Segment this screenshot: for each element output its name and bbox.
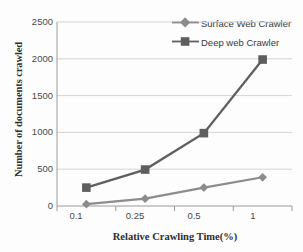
legend-marker-surface-diamond-icon bbox=[180, 17, 190, 27]
series-line-surface bbox=[86, 177, 262, 204]
x-axis-ticks bbox=[57, 206, 292, 211]
data-point-diamond-icon bbox=[258, 173, 267, 182]
data-point-diamond-icon bbox=[141, 194, 150, 203]
series-markers-deep bbox=[82, 55, 267, 192]
series-markers-surface bbox=[82, 173, 267, 209]
data-point-square-icon bbox=[258, 55, 267, 64]
data-point-diamond-icon bbox=[199, 183, 208, 192]
series-surface-web-crawler bbox=[82, 173, 267, 209]
chart-container: Number of documents crawled 2500 2000 15… bbox=[0, 0, 303, 252]
series-line-deep bbox=[86, 60, 262, 188]
legend-marker-deep-square-icon bbox=[181, 37, 190, 46]
data-point-square-icon bbox=[141, 165, 150, 174]
data-point-square-icon bbox=[200, 129, 209, 138]
data-point-square-icon bbox=[82, 183, 91, 192]
plot-area bbox=[0, 0, 303, 252]
data-point-diamond-icon bbox=[82, 200, 91, 209]
series-deep-web-crawler bbox=[82, 55, 267, 192]
gridlines bbox=[57, 22, 292, 169]
